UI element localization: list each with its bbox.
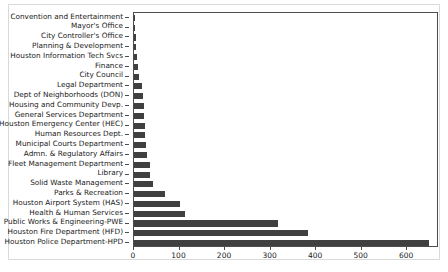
- x-axis-tick-mark: [179, 247, 180, 250]
- y-axis-tick-mark: [125, 193, 129, 194]
- y-axis-tick-mark: [125, 154, 129, 155]
- y-axis-tick-label: Houston Fire Department (HFD): [8, 228, 123, 236]
- y-axis-tick-label: City Controller's Office: [41, 32, 123, 40]
- y-axis-labels: Convention and EntertainmentMayor's Offi…: [0, 12, 129, 247]
- bar: [134, 64, 138, 70]
- y-axis-tick-mark: [125, 66, 129, 67]
- bar: [134, 74, 139, 80]
- y-axis-tick-label: Public Works & Engineering-PWE: [4, 218, 123, 226]
- y-axis-tick-mark: [125, 242, 129, 243]
- x-axis-tick-mark: [361, 247, 362, 250]
- x-axis-tick-mark: [315, 247, 316, 250]
- y-axis-tick-label: Convention and Entertainment: [10, 13, 123, 21]
- y-axis-tick-mark: [125, 134, 129, 135]
- y-axis-tick-label: Library: [97, 169, 123, 177]
- bar: [134, 181, 153, 187]
- bar: [134, 113, 144, 119]
- x-axis-tick-label: 600: [399, 251, 413, 260]
- y-axis-tick-label: Dept of Neighborhoods (DON): [14, 91, 123, 99]
- bar: [134, 34, 136, 40]
- bar: [134, 191, 165, 197]
- x-axis-tick-label: 500: [353, 251, 367, 260]
- bar: [134, 132, 145, 138]
- y-axis-tick-label: Solid Waste Management: [30, 179, 123, 187]
- y-axis-tick-label: Houston Emergency Center (HEC): [0, 120, 123, 128]
- chart-figure: Convention and EntertainmentMayor's Offi…: [0, 0, 448, 272]
- bar: [134, 220, 278, 226]
- x-axis-tick-label: 400: [308, 251, 322, 260]
- y-axis-tick-mark: [125, 164, 129, 165]
- bar: [134, 162, 150, 168]
- y-axis-tick-label: Admn. & Regulatory Affairs: [24, 150, 123, 158]
- y-axis-tick-label: Houston Airport System (HAS): [13, 199, 123, 207]
- y-axis-tick-label: Municipal Courts Department: [16, 140, 123, 148]
- x-axis-tick-mark: [133, 247, 134, 250]
- x-axis-tick-mark: [406, 247, 407, 250]
- y-axis-tick-mark: [125, 95, 129, 96]
- x-axis-tick-label: 300: [262, 251, 276, 260]
- bar: [134, 93, 143, 99]
- y-axis-tick-mark: [125, 125, 129, 126]
- y-axis-tick-label: Planning & Development: [32, 42, 123, 50]
- bars-layer: [134, 13, 437, 246]
- bar: [134, 123, 145, 129]
- y-axis-tick-label: Housing and Community Devp.: [9, 101, 123, 109]
- y-axis-tick-label: Houston Police Department-HPD: [5, 238, 123, 246]
- y-axis-tick-mark: [125, 105, 129, 106]
- y-axis-tick-label: General Services Department: [15, 111, 123, 119]
- y-axis-tick-mark: [125, 174, 129, 175]
- bar: [134, 83, 142, 89]
- bar: [134, 240, 429, 246]
- plot-area: [133, 12, 438, 247]
- x-axis-tick-label: 200: [217, 251, 231, 260]
- y-axis-tick-mark: [125, 46, 129, 47]
- bar: [134, 15, 135, 21]
- y-axis-tick-mark: [125, 144, 129, 145]
- x-axis-tick-mark: [224, 247, 225, 250]
- bar: [134, 211, 185, 217]
- y-axis-tick-label: Human Resources Dept.: [35, 130, 123, 138]
- x-axis-ticks: 0100200300400500600: [133, 247, 438, 269]
- bar: [134, 172, 150, 178]
- y-axis-tick-label: Parks & Recreation: [54, 189, 123, 197]
- bar: [134, 152, 147, 158]
- y-axis-tick-mark: [125, 85, 129, 86]
- bar: [134, 44, 136, 50]
- y-axis-tick-mark: [125, 115, 129, 116]
- y-axis-tick-label: Legal Department: [57, 81, 123, 89]
- bar: [134, 25, 135, 31]
- x-axis-tick-label: 0: [131, 251, 136, 260]
- bar: [134, 103, 144, 109]
- y-axis-tick-label: Fleet Management Department: [8, 160, 123, 168]
- y-axis-tick-mark: [125, 27, 129, 28]
- y-axis-tick-mark: [125, 203, 129, 204]
- bar: [134, 201, 180, 207]
- y-axis-tick-label: Mayor's Office: [71, 22, 123, 30]
- y-axis-tick-label: Health & Human Services: [29, 209, 123, 217]
- y-axis-tick-mark: [125, 232, 129, 233]
- y-axis-tick-label: Houston Information Tech Svcs: [10, 52, 123, 60]
- y-axis-tick-mark: [125, 223, 129, 224]
- x-axis-tick-label: 100: [171, 251, 185, 260]
- y-axis-tick-mark: [125, 36, 129, 37]
- bar: [134, 230, 308, 236]
- y-axis-tick-mark: [125, 183, 129, 184]
- bar: [134, 54, 137, 60]
- y-axis-tick-mark: [125, 213, 129, 214]
- y-axis-tick-mark: [125, 56, 129, 57]
- y-axis-tick-mark: [125, 17, 129, 18]
- bar: [134, 142, 146, 148]
- y-axis-tick-label: Finance: [95, 62, 123, 70]
- x-axis-tick-mark: [270, 247, 271, 250]
- y-axis-tick-label: City Council: [80, 71, 124, 79]
- y-axis-tick-mark: [125, 76, 129, 77]
